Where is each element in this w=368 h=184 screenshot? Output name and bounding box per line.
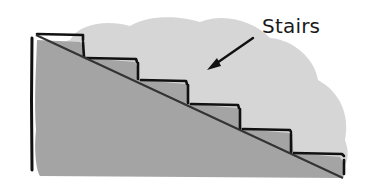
stairs-label: Stairs (262, 14, 320, 38)
left-wall-line (32, 38, 33, 170)
stairs-diagram: Stairs (0, 0, 368, 184)
